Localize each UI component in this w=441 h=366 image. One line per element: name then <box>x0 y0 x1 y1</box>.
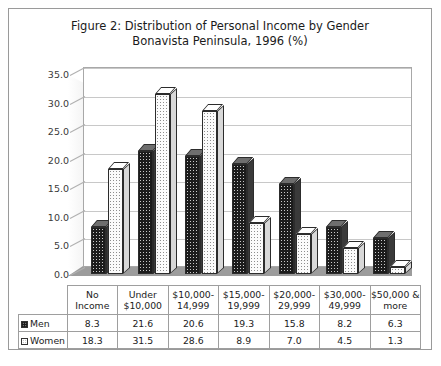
table-header-line: $50,000 & <box>371 289 421 300</box>
bar-men-3 <box>232 164 247 274</box>
bar-front-face <box>202 111 217 274</box>
table-header-line: $10,000- <box>169 289 219 300</box>
bar-front-face <box>108 169 123 274</box>
bar-front-face <box>249 223 264 274</box>
data-table: No IncomeUnder$10,000$10,000-14,999$15,0… <box>18 285 421 349</box>
bar-front-face <box>138 151 153 274</box>
bar-side-face <box>123 163 130 274</box>
chart-title: Figure 2: Distribution of Personal Incom… <box>9 19 431 49</box>
bar-side-face <box>264 217 271 274</box>
legend-item-men: Men <box>19 315 68 332</box>
table-row: Women18.331.528.68.97.04.51.3 <box>19 332 421 349</box>
bar-women-4 <box>296 234 311 274</box>
table-cell-value: 15.8 <box>269 315 320 332</box>
bar-men-2 <box>185 156 200 274</box>
table-cell-value: 18.3 <box>67 332 118 349</box>
table-header-line: 49,999 <box>320 300 370 311</box>
table-cell-value: 19.3 <box>219 315 270 332</box>
data-table-body: No IncomeUnder$10,000$10,000-14,999$15,0… <box>19 286 421 349</box>
bar-women-0 <box>108 169 123 274</box>
table-cell-value: 8.9 <box>219 332 270 349</box>
bar-front-face <box>343 248 358 274</box>
bar-side-face <box>311 228 318 274</box>
bar-series-group <box>35 67 420 284</box>
bar-women-2 <box>202 111 217 274</box>
table-cell-value: 28.6 <box>168 332 219 349</box>
figure-container: Figure 2: Distribution of Personal Incom… <box>8 8 432 350</box>
table-header-line: more <box>371 300 421 311</box>
table-row-categories: No IncomeUnder$10,000$10,000-14,999$15,0… <box>19 286 421 315</box>
table-row: Men8.321.620.619.315.88.26.3 <box>19 315 421 332</box>
plot-area: 0.05.010.015.020.025.030.035.0 <box>35 67 420 284</box>
bar-front-face <box>373 238 388 274</box>
table-cell-value: 20.6 <box>168 315 219 332</box>
bar-front-face <box>390 267 405 274</box>
bar-women-6 <box>390 267 405 274</box>
bar-front-face <box>296 234 311 274</box>
table-header-category: Under$10,000 <box>118 286 169 315</box>
table-header-line: $20,000- <box>270 289 320 300</box>
bar-front-face <box>185 156 200 274</box>
bar-side-face <box>170 88 177 274</box>
bar-men-5 <box>326 227 341 274</box>
legend-swatch-men-icon <box>21 321 28 328</box>
bar-front-face <box>279 184 294 274</box>
table-cell-value: 8.3 <box>67 315 118 332</box>
table-header-line: 14,999 <box>169 300 219 311</box>
bar-side-face <box>358 242 365 274</box>
bar-women-1 <box>155 94 170 274</box>
table-header-line: 29,999 <box>270 300 320 311</box>
table-header-category: $20,000-29,999 <box>269 286 320 315</box>
legend-label: Women <box>30 335 65 346</box>
table-header-line: $30,000- <box>320 289 370 300</box>
table-cell-value: 21.6 <box>118 315 169 332</box>
table-header-category: $30,000-49,999 <box>320 286 371 315</box>
table-header-line: No Income <box>68 289 118 311</box>
legend-swatch-women-icon <box>21 338 28 345</box>
table-header-category: $50,000 &more <box>370 286 421 315</box>
legend-label: Men <box>30 318 50 329</box>
bar-side-face <box>217 104 224 274</box>
table-header-line: $15,000- <box>219 289 269 300</box>
table-header-category: $10,000-14,999 <box>168 286 219 315</box>
table-corner-cell <box>19 286 68 315</box>
bar-women-5 <box>343 248 358 274</box>
chart-title-line-2: Bonavista Peninsula, 1996 (%) <box>9 34 431 49</box>
bar-front-face <box>232 164 247 274</box>
table-header-line: Under <box>118 289 168 300</box>
table-header-category: $15,000-19,999 <box>219 286 270 315</box>
chart-title-line-1: Figure 2: Distribution of Personal Incom… <box>9 19 431 34</box>
bar-front-face <box>91 227 106 274</box>
bar-front-face <box>155 94 170 274</box>
bar-men-4 <box>279 184 294 274</box>
table-cell-value: 7.0 <box>269 332 320 349</box>
table-cell-value: 1.3 <box>370 332 421 349</box>
legend-item-women: Women <box>19 332 68 349</box>
table-cell-value: 31.5 <box>118 332 169 349</box>
table-cell-value: 8.2 <box>320 315 371 332</box>
bar-front-face <box>326 227 341 274</box>
bar-men-6 <box>373 238 388 274</box>
table-cell-value: 6.3 <box>370 315 421 332</box>
table-header-line: 19,999 <box>219 300 269 311</box>
table-header-line: $10,000 <box>118 300 168 311</box>
table-cell-value: 4.5 <box>320 332 371 349</box>
table-header-category: No Income <box>67 286 118 315</box>
bar-men-1 <box>138 151 153 274</box>
bar-men-0 <box>91 227 106 274</box>
bar-women-3 <box>249 223 264 274</box>
